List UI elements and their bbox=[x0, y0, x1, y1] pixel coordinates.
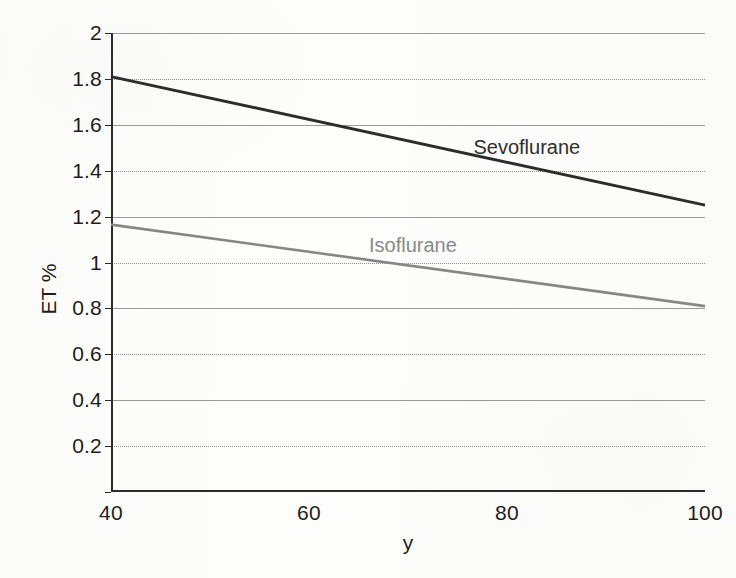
x-axis-tick-label: 80 bbox=[495, 501, 519, 525]
series-lines bbox=[111, 33, 705, 492]
x-axis-tick-label: 100 bbox=[687, 501, 723, 525]
x-axis-tick-label: 40 bbox=[99, 501, 123, 525]
y-axis-tick-label: 0.2 bbox=[72, 434, 102, 458]
x-axis-tick-label: 60 bbox=[297, 501, 321, 525]
y-axis-tick-label: 1.8 bbox=[72, 67, 102, 91]
series-label-isoflurane: Isoflurane bbox=[369, 234, 457, 257]
y-axis-tick-mark bbox=[105, 492, 111, 493]
y-axis-label: ET % bbox=[37, 264, 61, 315]
y-axis-tick-label: 0.4 bbox=[72, 388, 102, 412]
series-line-sevoflurane bbox=[111, 77, 705, 206]
chart-figure: ET % y 0.20.40.60.811.21.41.61.82 406080… bbox=[0, 0, 736, 578]
y-axis-tick-label: 0.8 bbox=[72, 296, 102, 320]
x-axis-label: y bbox=[403, 531, 414, 555]
y-axis-tick-label: 0.6 bbox=[72, 342, 102, 366]
y-axis-tick-label: 1 bbox=[90, 251, 102, 275]
y-axis-tick-label: 2 bbox=[90, 21, 102, 45]
y-axis-tick-label: 1.6 bbox=[72, 113, 102, 137]
series-label-sevoflurane: Sevoflurane bbox=[473, 135, 580, 158]
y-axis-tick-label: 1.4 bbox=[72, 159, 102, 183]
plot-area: 0.20.40.60.811.21.41.61.82 406080100 Sev… bbox=[111, 33, 705, 492]
y-axis-tick-label: 1.2 bbox=[72, 205, 102, 229]
